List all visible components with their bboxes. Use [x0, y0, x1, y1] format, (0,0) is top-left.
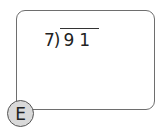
badge-label: E [15, 104, 26, 124]
problem-label-badge: E [7, 100, 34, 127]
long-division-problem: 7 ) 91 [44, 28, 99, 50]
dividend: 91 [60, 28, 99, 50]
division-bracket-icon: ) [54, 30, 61, 50]
problem-card [16, 10, 155, 110]
